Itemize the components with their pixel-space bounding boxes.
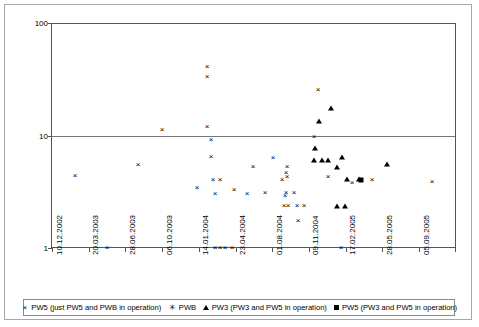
legend-item: PW5 (PW3 and PW5 in operation): [334, 303, 457, 312]
data-point-cross: ×: [73, 172, 78, 180]
x-axis-tick-label: 17.02.2005: [348, 215, 357, 255]
x-axis-tick-mark: [52, 248, 53, 252]
data-point-cross: ×: [205, 123, 210, 131]
legend-item-label: PW5 (PW3 and PW5 in operation): [342, 303, 457, 312]
gridline-10: [52, 136, 456, 137]
data-point-cross: ×: [326, 173, 331, 181]
x-axis-tick-label: 23.04.2004: [238, 215, 247, 255]
x-axis-tick-mark: [162, 248, 163, 252]
plot-area: ××××××××××××××××××××××××××××××××××××××××…: [51, 23, 455, 248]
data-point-triangle: [384, 161, 390, 166]
data-point-cross: ×: [209, 136, 214, 144]
data-point-cross: ×: [339, 244, 344, 252]
data-point-cross: ×: [209, 153, 214, 161]
x-axis-tick-mark: [199, 248, 200, 252]
x-axis-tick-mark: [346, 248, 347, 252]
data-point-cross: ×: [271, 154, 276, 162]
chart-legend: ×PW5 (just PW5 and PWB in operation)✳PWB…: [23, 299, 455, 316]
legend-marker-icon: ✳: [168, 304, 176, 312]
x-axis-tick-label: 14.01.2004: [201, 215, 210, 255]
legend-item-label: PW5 (just PW5 and PWB in operation): [31, 303, 161, 312]
data-point-cross: ×: [213, 190, 218, 198]
x-axis-tick-label: 06.10.2003: [165, 215, 174, 255]
x-axis-tick-mark: [309, 248, 310, 252]
x-axis-tick-label: 28.06.2003: [128, 215, 137, 255]
y-axis-tick-label: 10: [2, 131, 48, 140]
legend-item: ×PW5 (just PW5 and PWB in operation): [21, 303, 162, 312]
y-axis-tick-mark: [48, 136, 52, 137]
x-axis-tick-label: 20.03.2003: [91, 215, 100, 255]
data-point-cross: ×: [292, 189, 297, 197]
x-axis-tick-mark: [455, 248, 456, 252]
legend-square-icon: [334, 305, 340, 311]
data-point-cross: ×: [251, 163, 256, 171]
x-axis-tick-label: 01.08.2004: [275, 215, 284, 255]
legend-item-label: PWB: [179, 303, 196, 312]
data-point-cross: ×: [211, 176, 216, 184]
data-point-triangle: [334, 165, 340, 170]
data-point-triangle: [311, 157, 317, 162]
legend-item: PW3 (PW3 and PW5 in operation): [203, 303, 327, 312]
data-point-cross: ×: [286, 202, 291, 210]
data-point-triangle: [328, 106, 334, 111]
data-point-cross: ×: [370, 176, 375, 184]
data-point-cross: ×: [296, 217, 301, 225]
x-axis-tick-mark: [236, 248, 237, 252]
data-point-triangle: [344, 177, 350, 182]
data-point-cross: ×: [230, 244, 235, 252]
data-point-cross: ×: [218, 244, 223, 252]
data-point-triangle: [342, 204, 348, 209]
data-point-square: [359, 177, 364, 182]
data-point-cross: ×: [350, 179, 355, 187]
x-axis-tick-mark: [419, 248, 420, 252]
legend-item: ✳PWB: [168, 303, 196, 312]
data-point-cross: ×: [316, 86, 321, 94]
data-point-cross: ×: [205, 73, 210, 81]
data-point-cross: ×: [223, 244, 228, 252]
data-point-triangle: [312, 146, 318, 151]
data-point-cross: ×: [213, 244, 218, 252]
data-point-cross: ×: [285, 173, 290, 181]
data-point-cross: ×: [205, 63, 210, 71]
data-point-cross: ×: [302, 202, 307, 210]
data-point-cross: ×: [312, 133, 317, 141]
data-point-triangle: [339, 155, 345, 160]
data-point-cross: ×: [280, 176, 285, 184]
data-point-cross: ×: [295, 202, 300, 210]
x-axis-tick-label: 28.05.2005: [385, 215, 394, 255]
y-axis-tick-labels: 110100: [0, 0, 48, 250]
y-axis-tick-label: 100: [2, 19, 48, 28]
x-axis-tick-mark: [272, 248, 273, 252]
scatter-chart: Coliforms [MPN/100 ml] 110100 ××××××××××…: [0, 0, 479, 327]
x-axis-tick-label: 09.11.2004: [311, 216, 320, 255]
data-point-cross: ×: [195, 184, 200, 192]
legend-marker-icon: ×: [21, 304, 29, 312]
data-point-cross: ×: [283, 192, 288, 200]
plot-right-border: [455, 23, 456, 248]
x-axis-tick-label: 05.09.2005: [422, 215, 431, 255]
data-point-triangle: [316, 118, 322, 123]
data-point-cross: ×: [160, 126, 165, 134]
data-point-cross: ×: [430, 178, 435, 186]
data-point-triangle: [325, 157, 331, 162]
data-point-cross: ×: [136, 161, 141, 169]
data-point-cross: ×: [245, 190, 250, 198]
gridline-100: [52, 23, 456, 24]
legend-triangle-icon: [203, 305, 209, 310]
x-axis-tick-mark: [382, 248, 383, 252]
y-axis-tick-mark: [48, 23, 52, 24]
x-axis-tick-mark: [125, 248, 126, 252]
data-point-cross: ×: [263, 189, 268, 197]
data-point-cross: ×: [105, 244, 110, 252]
data-point-cross: ×: [218, 176, 223, 184]
x-axis-tick-label: 10.12.2002: [55, 215, 64, 255]
y-axis-tick-label: 1: [2, 244, 48, 253]
legend-item-label: PW3 (PW3 and PW5 in operation): [212, 303, 327, 312]
data-point-triangle: [334, 204, 340, 209]
x-axis-tick-mark: [89, 248, 90, 252]
data-point-cross: ×: [232, 186, 237, 194]
